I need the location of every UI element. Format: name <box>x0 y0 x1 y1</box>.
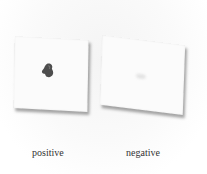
positive-card <box>13 36 88 112</box>
negative-label: negative <box>126 147 160 158</box>
dark-stain-icon <box>41 62 55 79</box>
faint-mark <box>136 73 146 79</box>
positive-label: positive <box>32 147 64 158</box>
negative-card <box>100 35 185 115</box>
